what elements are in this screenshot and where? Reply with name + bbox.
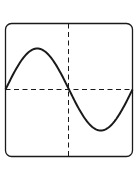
sine-diagram bbox=[0, 0, 140, 173]
